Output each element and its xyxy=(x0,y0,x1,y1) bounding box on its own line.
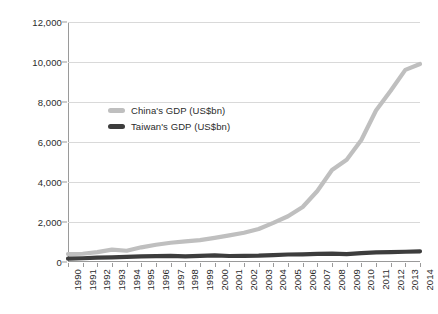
gdp-line-chart: 02,0004,0006,0008,00010,00012,000 199019… xyxy=(0,0,438,314)
x-axis-tick-label: 2003 xyxy=(263,269,274,291)
y-axis-tick xyxy=(62,102,67,103)
x-axis-tick xyxy=(141,263,142,267)
x-axis-tick-label: 1990 xyxy=(72,269,83,291)
y-axis-tick xyxy=(62,22,67,23)
legend-label: Taiwan's GDP (US$bn) xyxy=(131,121,230,132)
series-layer xyxy=(68,22,420,262)
x-axis-tick-label: 2009 xyxy=(351,269,362,291)
x-axis-tick xyxy=(405,263,406,267)
x-axis-tick-label: 2002 xyxy=(248,269,259,291)
x-axis-tick xyxy=(420,263,421,267)
y-axis-tick xyxy=(62,262,67,263)
x-axis-tick-label: 2012 xyxy=(395,269,406,291)
y-axis-tick-label: 2,000 xyxy=(38,217,62,228)
x-axis-tick xyxy=(171,263,172,267)
x-axis-tick-label: 2006 xyxy=(307,269,318,291)
x-axis-tick xyxy=(229,263,230,267)
x-axis-tick-label: 1992 xyxy=(101,269,112,291)
x-axis-tick xyxy=(332,263,333,267)
x-axis-tick-label: 2008 xyxy=(336,269,347,291)
y-axis-tick-label: 4,000 xyxy=(38,177,62,188)
x-axis-tick xyxy=(259,263,260,267)
x-axis-tick-label: 2005 xyxy=(292,269,303,291)
y-axis-tick-label: 8,000 xyxy=(38,97,62,108)
legend-swatch-icon xyxy=(108,108,125,113)
x-axis-tick xyxy=(317,263,318,267)
x-axis-tick-label: 2011 xyxy=(380,269,391,290)
x-axis-labels: 1990199119921993199419951996199719981999… xyxy=(68,263,420,314)
y-axis-tick-label: 10,000 xyxy=(32,57,62,68)
x-axis-tick-label: 2007 xyxy=(321,269,332,291)
y-axis-tick-label: 6,000 xyxy=(38,137,62,148)
x-axis-tick xyxy=(97,263,98,267)
x-axis-tick xyxy=(303,263,304,267)
x-axis-tick xyxy=(376,263,377,267)
x-axis-tick xyxy=(391,263,392,267)
x-axis-tick xyxy=(156,263,157,267)
y-axis-tick xyxy=(62,222,67,223)
x-axis-tick-label: 1999 xyxy=(204,269,215,291)
chart-legend: China's GDP (US$bn)Taiwan's GDP (US$bn) xyxy=(108,104,230,133)
x-axis-tick xyxy=(273,263,274,267)
series-line-1 xyxy=(68,64,420,254)
x-axis-tick-label: 1991 xyxy=(87,269,98,291)
legend-label: China's GDP (US$bn) xyxy=(131,105,225,116)
y-axis-tick xyxy=(62,62,67,63)
x-axis-tick xyxy=(347,263,348,267)
x-axis-tick-label: 2000 xyxy=(219,269,230,291)
y-axis-tick xyxy=(62,142,67,143)
series-line-2 xyxy=(68,251,420,258)
y-axis-labels: 02,0004,0006,0008,00010,00012,000 xyxy=(0,22,62,262)
x-axis-tick-label: 1994 xyxy=(131,269,142,291)
x-axis-tick xyxy=(83,263,84,267)
legend-swatch-icon xyxy=(108,124,125,129)
x-axis-tick-label: 2013 xyxy=(409,269,420,291)
x-axis-tick-label: 1998 xyxy=(189,269,200,291)
legend-item-2[interactable]: Taiwan's GDP (US$bn) xyxy=(108,120,230,133)
x-axis-tick xyxy=(361,263,362,267)
x-axis-tick xyxy=(215,263,216,267)
legend-item-1[interactable]: China's GDP (US$bn) xyxy=(108,104,230,117)
x-axis-tick-label: 1996 xyxy=(160,269,171,291)
x-axis-tick-label: 2004 xyxy=(277,269,288,291)
x-axis-tick-label: 1995 xyxy=(145,269,156,291)
y-axis-tick-label: 12,000 xyxy=(32,17,62,28)
x-axis-tick xyxy=(127,263,128,267)
y-axis-tick xyxy=(62,182,67,183)
x-axis-tick-label: 2010 xyxy=(365,269,376,291)
x-axis-tick xyxy=(68,263,69,267)
x-axis-tick xyxy=(288,263,289,267)
x-axis-tick xyxy=(185,263,186,267)
x-axis-tick xyxy=(244,263,245,267)
x-axis-tick-label: 2001 xyxy=(233,269,244,291)
x-axis-tick-label: 2014 xyxy=(424,269,435,291)
x-axis-tick xyxy=(112,263,113,267)
x-axis-tick-label: 1993 xyxy=(116,269,127,291)
x-axis-tick xyxy=(200,263,201,267)
x-axis-tick-label: 1997 xyxy=(175,269,186,291)
